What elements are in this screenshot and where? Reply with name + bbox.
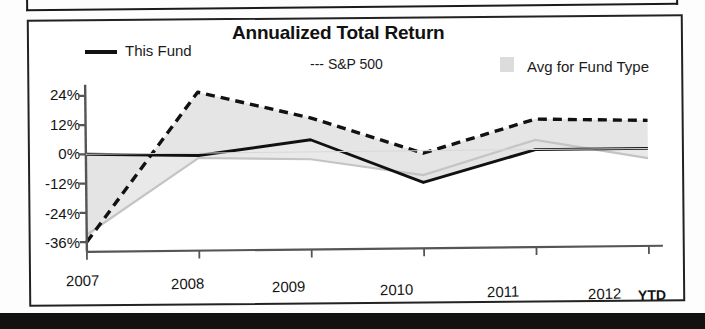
chart-screenshot: Annualized Total Return This Fund --- S&… [0, 0, 705, 329]
scan-edge-band [0, 313, 705, 329]
chart-plot-area [0, 0, 705, 329]
